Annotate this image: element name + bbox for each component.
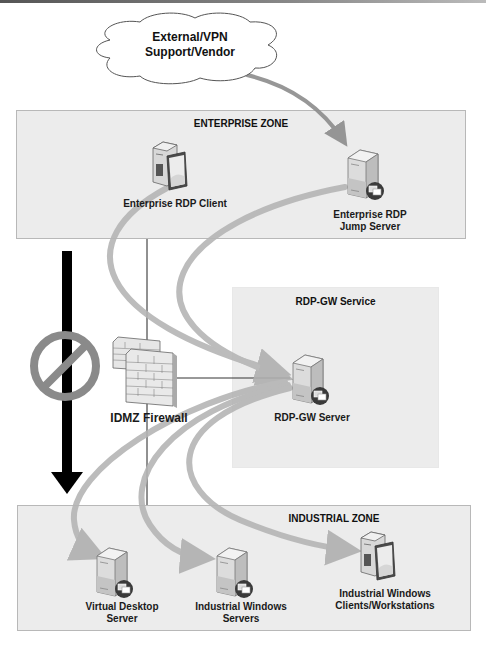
flow-arrows xyxy=(74,75,350,558)
industrial-windows-servers-label: Industrial Windows Servers xyxy=(186,601,296,625)
label-line: Enterprise RDP xyxy=(320,209,420,221)
rdp-gw-server-label: RDP-GW Server xyxy=(262,412,362,424)
label-line: Jump Server xyxy=(320,221,420,233)
label-line: Virtual Desktop xyxy=(72,601,172,613)
rdp-gw-server-icon xyxy=(293,355,329,405)
jump-server-label: Enterprise RDP Jump Server xyxy=(320,209,420,233)
industrial-clients-icon xyxy=(361,532,395,580)
label-line: Clients/Workstations xyxy=(325,600,445,612)
virtual-desktop-server-icon xyxy=(97,548,133,598)
flow-cloud-to-jump xyxy=(247,75,343,140)
idmz-firewall-label: IDMZ Firewall xyxy=(104,412,194,424)
label-line: IDMZ Firewall xyxy=(104,412,194,424)
label-line: Server xyxy=(72,613,172,625)
firewall-icon xyxy=(113,337,177,408)
enterprise-rdp-client-label: Enterprise RDP Client xyxy=(110,198,240,210)
cloud-label-line1: External/VPN xyxy=(130,30,250,45)
label-line: Enterprise RDP Client xyxy=(110,198,240,210)
label-line: RDP-GW Server xyxy=(262,412,362,424)
diagram-canvas xyxy=(0,0,486,647)
jump-server-icon xyxy=(348,150,384,200)
cloud-label: External/VPN Support/Vendor xyxy=(130,30,250,60)
industrial-clients-label: Industrial Windows Clients/Workstations xyxy=(325,588,445,612)
enterprise-rdp-client-icon xyxy=(153,142,187,190)
industrial-windows-servers-icon xyxy=(217,548,253,598)
label-line: Servers xyxy=(186,613,296,625)
label-line: Industrial Windows xyxy=(325,588,445,600)
virtual-desktop-server-label: Virtual Desktop Server xyxy=(72,601,172,625)
cloud-label-line2: Support/Vendor xyxy=(130,45,250,60)
label-line: Industrial Windows xyxy=(186,601,296,613)
